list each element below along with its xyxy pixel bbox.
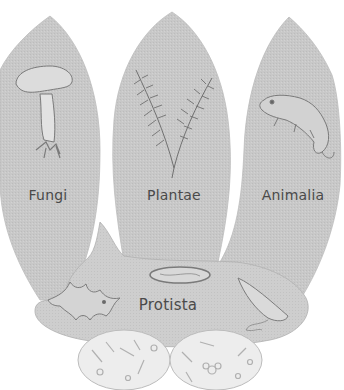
label-animalia: Animalia — [262, 187, 325, 203]
label-plantae: Plantae — [147, 187, 201, 203]
animalia-lobe — [220, 17, 341, 300]
bacteria-cell-left — [78, 330, 170, 390]
five-kingdoms-diagram: Fungi Plantae Animalia Protista — [0, 0, 344, 390]
fungi-lobe — [0, 16, 100, 300]
label-protista: Protista — [139, 296, 197, 314]
plantae-lobe — [113, 12, 231, 262]
label-fungi: Fungi — [29, 187, 68, 203]
paramecium-illustration — [150, 267, 210, 283]
